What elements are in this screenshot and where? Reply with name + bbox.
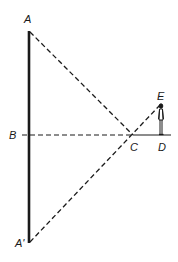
- reflection-diagram: A B A' C D E: [0, 0, 178, 262]
- ray-A-C: [30, 32, 133, 135]
- ray-Aprime-E: [30, 105, 160, 242]
- observer-figure-icon: [159, 104, 164, 135]
- label-C: C: [130, 141, 138, 153]
- label-A: A: [23, 13, 31, 25]
- label-D: D: [158, 141, 166, 153]
- label-A-prime: A': [14, 237, 25, 249]
- label-B: B: [9, 129, 16, 141]
- label-E: E: [157, 90, 165, 102]
